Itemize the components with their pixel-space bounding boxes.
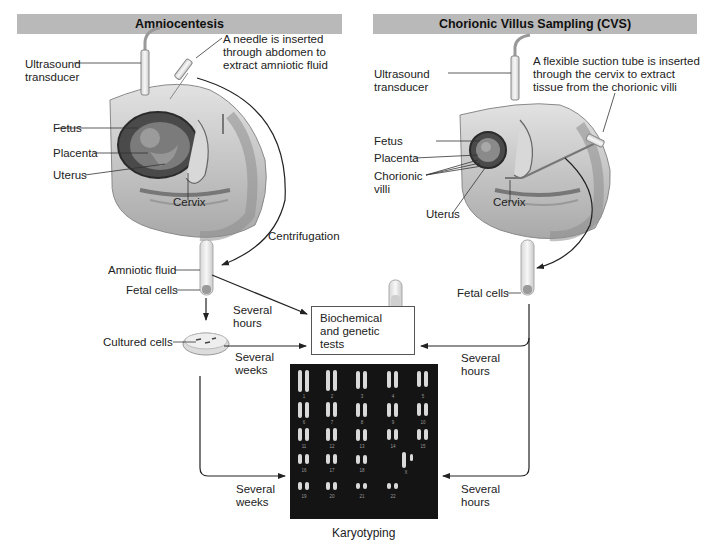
svg-text:8: 8	[361, 420, 364, 425]
cvs-tube-note-1: A flexible suction tube is inserted	[533, 55, 700, 68]
svg-text:7: 7	[331, 420, 334, 425]
amnio-needle-note-1: A needle is inserted	[223, 33, 323, 46]
chromosome-pairs: 12345 678910 1112131415 161718X 19202122	[290, 364, 438, 519]
amnio-needle-note-2: through abdomen to	[223, 46, 326, 59]
cvs-tube-note-3: tissue from the chorionic villi	[533, 81, 677, 94]
amnio-uterus-label: Uterus	[53, 169, 87, 182]
svg-text:16: 16	[301, 468, 307, 473]
svg-text:6: 6	[303, 420, 306, 425]
svg-text:19: 19	[301, 494, 307, 499]
chorionic-villi-label-2: villi	[374, 183, 390, 196]
svg-text:12: 12	[329, 444, 335, 449]
svg-text:X: X	[404, 470, 407, 475]
amnio-fetal-cells-label: Fetal cells	[126, 284, 178, 297]
amnio-anatomy-illustration	[110, 84, 266, 237]
svg-text:18: 18	[359, 468, 365, 473]
amnio-test-tube-icon	[200, 240, 213, 295]
amnio-ultrasound-label-1: Ultrasound	[25, 58, 81, 71]
svg-text:21: 21	[359, 494, 365, 499]
amnio-fetus-label: Fetus	[53, 122, 82, 135]
culture-to-tests-time-1: Several	[235, 351, 274, 364]
svg-text:3: 3	[361, 394, 364, 399]
petri-dish-icon	[183, 333, 229, 355]
cvs-ultrasound-label-1: Ultrasound	[374, 68, 430, 81]
cvs-to-karyo-time-2: hours	[461, 496, 490, 509]
cvs-fetal-cells-label: Fetal cells	[457, 287, 509, 300]
cvs-to-tests-time-1: Several	[461, 352, 500, 365]
culture-to-karyo-time-1: Several	[236, 483, 275, 496]
cvs-fetus-label: Fetus	[374, 135, 403, 148]
svg-text:4: 4	[392, 394, 395, 399]
cvs-ultrasound-label-2: transducer	[374, 81, 428, 94]
culture-to-tests-time-2: weeks	[235, 364, 268, 377]
svg-text:20: 20	[329, 494, 335, 499]
svg-text:5: 5	[422, 394, 425, 399]
amnio-cervix-label: Cervix	[173, 196, 206, 209]
culture-to-karyo-time-2: weeks	[236, 496, 269, 509]
chorionic-villi-label-1: Chorionic	[374, 170, 423, 183]
svg-text:9: 9	[392, 420, 395, 425]
amnio-ultrasound-label-2: transducer	[25, 71, 79, 84]
tests-label-line1: Biochemical	[320, 312, 382, 325]
svg-text:15: 15	[420, 444, 426, 449]
cvs-placenta-label: Placenta	[374, 152, 419, 165]
amnio-placenta-label: Placenta	[53, 147, 98, 160]
cultured-cells-label: Cultured cells	[103, 336, 173, 349]
cvs-to-karyo-time-1: Several	[461, 483, 500, 496]
svg-text:14: 14	[390, 444, 396, 449]
svg-text:1: 1	[303, 394, 306, 399]
cvs-cervix-label: Cervix	[493, 196, 526, 209]
amnio-to-tests-time-2: hours	[233, 317, 262, 330]
svg-text:17: 17	[329, 468, 335, 473]
karyotype-image: 12345 678910 1112131415 161718X 19202122	[290, 364, 438, 519]
amnio-to-tests-time-1: Several	[233, 304, 272, 317]
svg-text:10: 10	[420, 420, 426, 425]
amnio-transducer-icon	[141, 50, 149, 95]
amniotic-fluid-label: Amniotic fluid	[108, 264, 176, 277]
svg-text:11: 11	[302, 444, 307, 449]
svg-text:22: 22	[390, 494, 396, 499]
centrifugation-label: Centrifugation	[268, 230, 340, 243]
cvs-transducer-icon	[511, 56, 519, 100]
svg-text:13: 13	[359, 444, 365, 449]
cvs-to-tests-time-2: hours	[461, 365, 490, 378]
svg-text:2: 2	[331, 394, 334, 399]
amnio-needle-note-3: extract amniotic fluid	[223, 59, 328, 72]
cvs-uterus-label: Uterus	[426, 208, 460, 221]
cvs-tube-note-2: through the cervix to extract	[533, 68, 675, 81]
cvs-test-tube-icon	[521, 240, 534, 295]
tests-label-line2: and genetic	[320, 325, 379, 338]
karyotyping-caption: Karyotyping	[332, 527, 395, 540]
tests-label-line3: tests	[320, 338, 344, 351]
